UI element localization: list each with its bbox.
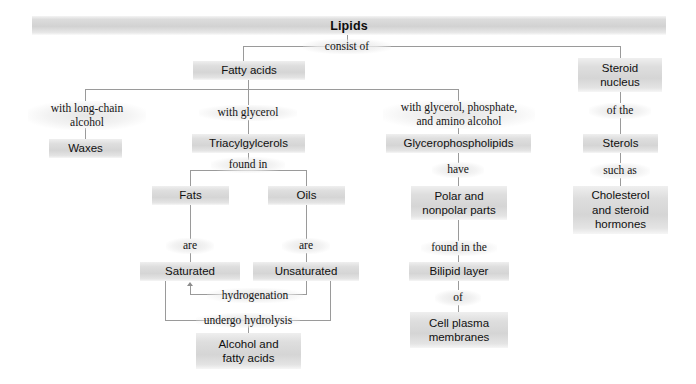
page-title-banner: Lipids: [32, 16, 666, 35]
connector-fatty-acids-stem: [248, 80, 249, 89]
connector-consist-of-spine: [243, 46, 620, 47]
arrowhead-hydrogenation-icon: [187, 282, 193, 286]
connector-to-fats: [190, 170, 191, 186]
connector-are-to-saturated: [190, 253, 191, 262]
connector-to-fatty-acids: [243, 46, 244, 61]
connector-such-as-to-cholesterol: [620, 178, 621, 186]
link-with-glycerol: with glycerol: [199, 105, 297, 121]
link-such-as: such as: [590, 163, 650, 179]
connector-polar-to-found-in-the: [458, 220, 459, 241]
node-triacylglycerols[interactable]: Triacylgylcerols: [192, 134, 305, 153]
link-found-in-the: found in the: [421, 240, 497, 256]
node-fats[interactable]: Fats: [152, 186, 229, 205]
link-of: of: [435, 290, 481, 306]
node-glycerophospholipids[interactable]: Glycerophospholipids: [386, 134, 531, 153]
node-sterols[interactable]: Sterols: [583, 134, 658, 153]
connector-fatty-acids-spine: [85, 89, 459, 90]
concept-map-canvas: Lipids consist of Fatty acids Steroid nu…: [0, 0, 696, 384]
connector-fats-to-are: [190, 205, 191, 239]
connector-hydrogenation-arrow-stem: [190, 285, 191, 294]
node-waxes[interactable]: Waxes: [49, 139, 122, 158]
connector-to-steroid-nucleus: [620, 46, 621, 58]
link-hydrogenation: hydrogenation: [207, 288, 303, 303]
link-with-glycerol-phosphate-amino-alcohol: with glycerol, phosphate, and amino alco…: [383, 100, 535, 129]
connector-of-to-cell-plasma: [458, 305, 459, 312]
node-cell-plasma-membranes[interactable]: Cell plasma membranes: [410, 312, 508, 348]
connector-have-to-polar: [458, 177, 459, 186]
link-with-long-chain-alcohol: with long-chain alcohol: [28, 101, 146, 130]
connector-steroid-to-of-the: [620, 92, 621, 103]
node-oils[interactable]: Oils: [268, 186, 345, 205]
connector-saturated-to-hydrolysis: [165, 281, 166, 320]
connector-to-with-long-chain: [85, 89, 86, 101]
connector-glycerol-to-triacylglycerols: [248, 120, 249, 134]
link-are-fats: are: [166, 238, 214, 254]
connector-unsaturated-down-hydro: [306, 281, 307, 294]
node-fatty-acids[interactable]: Fatty acids: [193, 61, 305, 80]
link-undergo-hydrolysis: undergo hydrolysis: [196, 313, 300, 328]
connector-found-in-the-to-bilipid: [458, 255, 459, 262]
connector-sterols-to-such-as: [620, 153, 621, 163]
connector-bilipid-to-of: [458, 281, 459, 290]
connector-of-the-to-sterols: [620, 118, 621, 134]
page-title: Lipids: [330, 19, 367, 33]
node-unsaturated[interactable]: Unsaturated: [253, 262, 359, 281]
node-bilipid-layer[interactable]: Bilipid layer: [409, 262, 509, 281]
node-polar-nonpolar-parts[interactable]: Polar and nonpolar parts: [411, 186, 507, 220]
connector-oils-to-are: [306, 205, 307, 239]
link-are-oils: are: [282, 238, 330, 254]
node-steroid-nucleus[interactable]: Steroid nucleus: [578, 58, 662, 92]
link-found-in: found in: [211, 157, 285, 173]
link-consist-of: consist of: [303, 39, 391, 54]
connector-to-oils: [306, 170, 307, 186]
node-saturated[interactable]: Saturated: [140, 262, 240, 281]
link-of-the: of the: [589, 103, 651, 119]
node-cholesterol-steroid-hormones[interactable]: Cholesterol and steroid hormones: [573, 186, 668, 234]
connector-to-with-glycerol: [248, 89, 249, 105]
node-alcohol-fatty-acids[interactable]: Alcohol and fatty acids: [196, 333, 301, 369]
link-have: have: [432, 162, 484, 178]
connector-unsaturated-to-hydrolysis: [330, 281, 331, 320]
connector-are-to-unsaturated: [306, 253, 307, 262]
